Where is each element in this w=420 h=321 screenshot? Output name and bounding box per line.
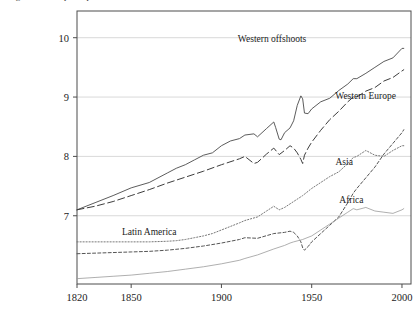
series-label-latin-america: Latin America xyxy=(122,227,177,237)
y-tick-label: 7 xyxy=(64,211,69,222)
series-label-western-offshoots: Western offshoots xyxy=(238,34,307,44)
x-tick-label: 1900 xyxy=(211,292,232,303)
x-tick-label: 1820 xyxy=(67,292,88,303)
y-tick-label: 9 xyxy=(64,92,69,103)
y-tick-label: 10 xyxy=(59,33,70,44)
x-tick-label: 1950 xyxy=(301,292,322,303)
gdp-per-capita-chart: Figure 1. GDP per capita 182018501900195… xyxy=(0,0,420,321)
x-tick-label: 1850 xyxy=(121,292,142,303)
series-label-western-europe: Western Europe xyxy=(335,91,396,101)
y-tick-label: 8 xyxy=(64,151,69,162)
figure-caption: Figure 1. GDP per capita xyxy=(8,0,100,1)
series-label-asia: Asia xyxy=(335,157,353,167)
series-label-africa: Africa xyxy=(339,195,364,205)
plot-area: 18201850190019502000 78910 Western offsh… xyxy=(0,0,420,321)
x-tick-label: 2000 xyxy=(391,292,412,303)
